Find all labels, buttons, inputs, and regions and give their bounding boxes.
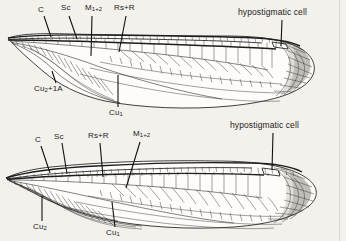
label-hindwing-c: C	[35, 136, 41, 144]
label-forewing-cu1: Cu1	[109, 109, 123, 117]
label-forewing-m12: M1+2	[85, 4, 102, 12]
label-forewing-cu2-1a: Cu2+1A	[34, 85, 63, 93]
wing-venation-figure: C Sc M1+2 Rs+R hypostigmatic cell Cu2+1A…	[0, 0, 346, 241]
page-margin-rule	[339, 0, 340, 241]
label-forewing-rs-r: Rs+R	[114, 4, 135, 12]
label-hindwing-rs-r: Rs+R	[88, 132, 109, 140]
forewing-group	[8, 34, 314, 108]
label-hindwing-m12: M1+2	[133, 130, 150, 138]
hindwing-group	[6, 161, 316, 229]
label-forewing-hypostigmatic-cell: hypostigmatic cell	[238, 8, 307, 17]
label-hindwing-cu1: Cu1	[106, 229, 120, 237]
label-forewing-c: C	[38, 6, 44, 14]
label-forewing-sc: Sc	[61, 4, 71, 12]
label-hindwing-cu2: Cu2	[33, 223, 47, 231]
label-hindwing-sc: Sc	[54, 133, 64, 141]
label-hindwing-hypostigmatic-cell: hypostigmatic cell	[230, 121, 299, 130]
